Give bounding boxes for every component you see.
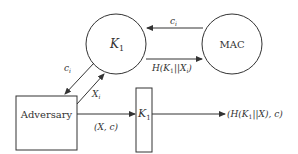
mac-circle-node: MAC [202,14,262,74]
k1-box-node: K1 [136,88,152,152]
svg-text:ci: ci [170,16,177,27]
edge-adversary-to-k1box: (X, c) [77,114,135,132]
adversary-label: Adversary [20,109,73,120]
k1-box-sub: 1 [146,114,150,122]
svg-text:ci: ci [64,63,71,74]
edge-adversary-to-k1: Xi [77,74,104,104]
edge-k1-to-adversary: ci [64,63,94,94]
k1-circle-sub: 1 [119,44,124,53]
mac-label: MAC [219,39,244,50]
edge-k1-to-mac: H(K1||Xi) [146,59,202,74]
edge-k1box-output: (H(K1||X), c) [152,109,283,120]
svg-text:K1: K1 [137,107,151,122]
svg-text:K1: K1 [109,37,124,53]
svg-text:(H(K1||X), c): (H(K1||X), c) [227,109,283,120]
edge-mac-to-k1: ci [147,16,203,28]
svg-text:H(K1||Xi): H(K1||Xi) [151,63,192,74]
svg-text:(X, c): (X, c) [94,122,119,132]
protocol-diagram: K1 MAC Adversary K1 ci H(K1||Xi) ci [0,0,298,154]
svg-text:Xi: Xi [91,89,100,100]
k1-circle-node: K1 [86,14,146,74]
adversary-box-node: Adversary [16,96,77,150]
